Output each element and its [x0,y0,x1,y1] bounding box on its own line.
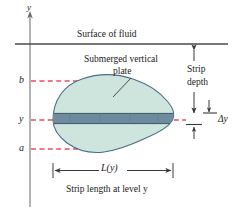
surface-of-fluid-label: Surface of fluid [77,30,137,40]
submerged-plate-figure: y Surface of fluid Submerged vertical pl… [0,0,241,210]
strip-depth-label-line2: depth [187,78,208,88]
strip-band [40,113,185,124]
delta-y-measure [186,100,217,139]
y-axis [27,11,33,207]
delta-y-label: Δy [218,115,228,125]
level-label-b: b [19,75,24,85]
y-axis-label: y [27,3,31,12]
caption-strip-length: Strip length at level y [66,185,148,195]
strip-depth-label-line1: Strip [187,65,205,75]
level-label-y: y [19,114,23,124]
submerged-plate-label-line1: Submerged vertical [84,55,158,65]
level-label-a: a [19,143,24,153]
length-label: L(y) [101,163,118,173]
submerged-plate-label-line2: plate [113,67,131,77]
